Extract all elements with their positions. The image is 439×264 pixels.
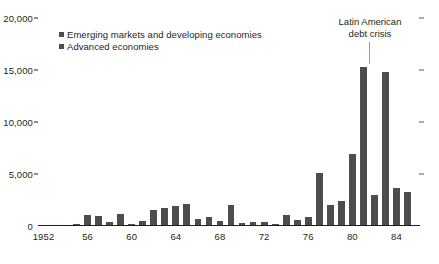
bar-chart-figure: 05,00010,00015,00020,000 195256606468727… (0, 0, 439, 264)
bar (371, 195, 378, 226)
x-tick-label: 56 (82, 231, 93, 242)
x-tick-label: 60 (126, 231, 137, 242)
annotation-leader-line (369, 42, 370, 64)
bar (404, 192, 411, 226)
bar (161, 208, 168, 226)
y-tick-label: 10,000 (3, 117, 33, 128)
legend-label: Advanced economies (67, 41, 159, 52)
y-tick-label: 0 (28, 221, 33, 232)
annotation-latin-american-debt-crisis: Latin American debt crisis (333, 16, 407, 39)
bar (360, 67, 367, 226)
y-tick-label: 15,000 (3, 65, 33, 76)
annotation-line-1: Latin American (333, 16, 407, 28)
bar (338, 201, 345, 226)
bar (150, 210, 157, 226)
bar (228, 205, 235, 226)
bar (349, 154, 356, 226)
bar (183, 204, 190, 226)
bar (393, 188, 400, 226)
y-tick-label: 5,000 (9, 169, 33, 180)
x-tick-label: 1952 (33, 231, 55, 242)
x-tick-label: 80 (347, 231, 358, 242)
legend-item-emerging: Emerging markets and developing economie… (59, 28, 262, 40)
x-tick-label: 76 (303, 231, 314, 242)
x-axis: 19525660646872768084 (38, 228, 413, 248)
bar (382, 72, 389, 226)
annotation-line-2: debt crisis (333, 28, 407, 40)
y-tick-label: 20,000 (3, 13, 33, 24)
legend-swatch-icon (59, 32, 64, 37)
x-tick-label: 68 (215, 231, 226, 242)
y-tick-mark-right (419, 18, 424, 19)
y-tick-mark-right (419, 122, 424, 123)
x-axis-baseline (38, 225, 420, 226)
chart-legend: Emerging markets and developing economie… (59, 28, 262, 52)
x-tick-label: 72 (259, 231, 270, 242)
legend-label: Emerging markets and developing economie… (67, 29, 262, 40)
bar (327, 205, 334, 226)
legend-swatch-icon (59, 44, 64, 49)
legend-item-advanced: Advanced economies (59, 40, 262, 52)
y-tick-mark-right (419, 70, 424, 71)
bar (172, 206, 179, 226)
x-tick-label: 64 (170, 231, 181, 242)
bar (316, 173, 323, 226)
y-tick-mark-right (419, 174, 424, 175)
x-tick-label: 84 (391, 231, 402, 242)
